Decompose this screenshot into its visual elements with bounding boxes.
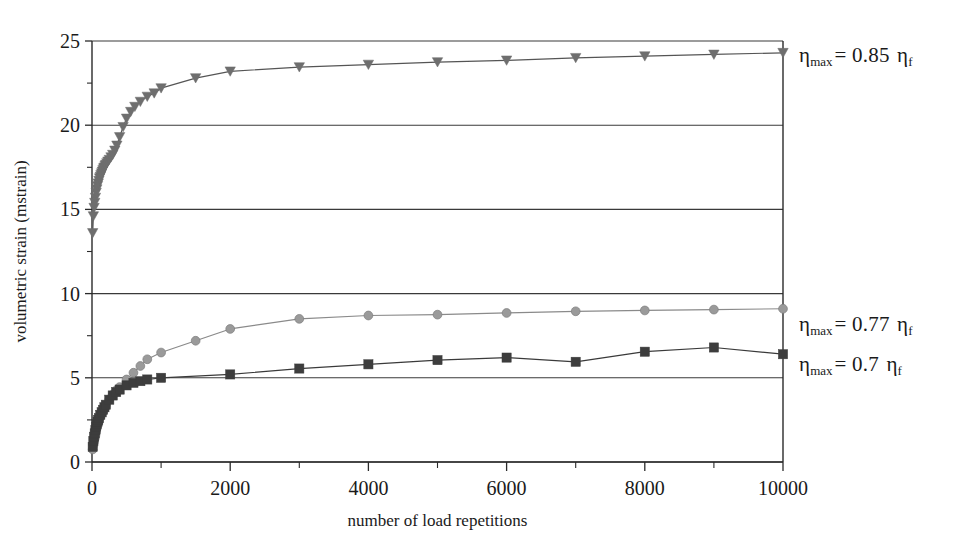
y-tick-label-25: 25 <box>60 30 80 52</box>
series-1-marker-20 <box>129 368 138 377</box>
series-1-marker-21 <box>136 362 145 371</box>
series-0-marker-1 <box>88 212 98 221</box>
series-1-marker-27 <box>364 311 373 320</box>
series-0-marker-27 <box>114 133 124 142</box>
y-tick-label-0: 0 <box>70 451 80 473</box>
x-axis-title: number of load repetitions <box>348 511 528 530</box>
annot-sub-max-07: max <box>810 363 832 378</box>
annot-eq-077: = 0.77 <box>833 312 892 336</box>
series-1-marker-32 <box>710 305 719 314</box>
series-2-marker-24 <box>226 370 235 379</box>
series-1-marker-25 <box>226 325 235 334</box>
series-2-marker-31 <box>709 343 718 352</box>
series-1-marker-29 <box>502 309 511 318</box>
series-2-marker-29 <box>571 357 580 366</box>
series-line-1 <box>93 309 783 450</box>
x-tick-label-0: 0 <box>87 477 97 499</box>
annot-sub-max-085: max <box>810 54 832 69</box>
y-axis-title: volumetric strain (mstrain) <box>11 160 30 342</box>
x-tick-label-6000: 6000 <box>487 477 527 499</box>
annot-eta-085: η <box>799 43 810 67</box>
y-tick-label-5: 5 <box>70 367 80 389</box>
series-0-marker-36 <box>190 74 200 83</box>
annot-eta-f-07: η <box>886 352 897 376</box>
x-tick-label-2000: 2000 <box>210 477 250 499</box>
series-2-marker-25 <box>295 364 304 373</box>
annot-sub-f-07: f <box>898 363 902 378</box>
annot-eta-077: η <box>799 312 810 336</box>
y-tick-label-15: 15 <box>60 198 80 220</box>
series-2-marker-28 <box>502 353 511 362</box>
series-0-marker-28 <box>118 122 128 131</box>
annot-sub-max-077: max <box>810 323 832 338</box>
series-1-marker-30 <box>571 307 580 316</box>
annot-eta-f-085: η <box>897 43 908 67</box>
series-1-marker-24 <box>191 336 200 345</box>
series-1-marker-31 <box>640 306 649 315</box>
x-tick-label-4000: 4000 <box>348 477 388 499</box>
series-2-marker-22 <box>143 375 152 384</box>
y-tick-label-10: 10 <box>60 283 80 305</box>
series-1-marker-22 <box>143 355 152 364</box>
series-2-marker-26 <box>364 360 373 369</box>
series-2-marker-32 <box>778 350 787 359</box>
y-tick-label-20: 20 <box>60 114 80 136</box>
series-2-marker-27 <box>433 356 442 365</box>
annot-eq-07: = 0.7 <box>833 352 881 376</box>
chart-plot-svg: 05101520250200040006000800010000number o… <box>0 0 972 552</box>
series-annotation-077: ηmax= 0.77 ηf <box>799 312 913 337</box>
series-1-marker-23 <box>157 348 166 357</box>
x-tick-label-8000: 8000 <box>625 477 665 499</box>
series-2-marker-23 <box>157 373 166 382</box>
x-tick-label-10000: 10000 <box>758 477 808 499</box>
annot-sub-f-085: f <box>908 54 912 69</box>
series-annotation-07: ηmax= 0.7 ηf <box>799 352 902 377</box>
series-1-marker-26 <box>295 314 304 323</box>
series-2-marker-30 <box>640 347 649 356</box>
annot-sub-f-077: f <box>908 323 912 338</box>
annot-eq-085: = 0.85 <box>833 43 892 67</box>
series-annotation-085: ηmax= 0.85 ηf <box>799 43 913 68</box>
annot-eta-07: η <box>799 352 810 376</box>
annot-eta-f-077: η <box>897 312 908 336</box>
series-1-marker-28 <box>433 310 442 319</box>
chart-figure: 05101520250200040006000800010000number o… <box>0 0 972 552</box>
series-0-marker-0 <box>87 229 97 238</box>
series-1-marker-33 <box>779 304 788 313</box>
